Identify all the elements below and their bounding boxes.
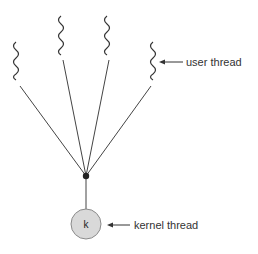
connector-line-3: [86, 60, 109, 176]
connector-line-1: [20, 86, 86, 176]
user-thread-label: user thread: [186, 56, 242, 68]
user-threads: [14, 16, 156, 80]
user-thread-4-wave: [151, 42, 156, 80]
kernel-thread-label: kernel thread: [134, 219, 198, 231]
arrow-left-icon: [159, 60, 165, 65]
connector-lines: [20, 60, 151, 209]
junction-dot: [83, 173, 89, 179]
connector-line-4: [86, 86, 151, 176]
connector-line-2: [63, 60, 86, 176]
user-thread-1-wave: [14, 42, 19, 80]
kernel-thread-callout: kernel thread: [107, 219, 198, 231]
arrow-left-icon: [107, 223, 113, 228]
user-thread-3-wave: [105, 16, 110, 55]
user-thread-2-wave: [59, 16, 64, 55]
user-thread-callout: user thread: [159, 56, 242, 68]
threading-diagram: k user thread kernel thread: [0, 0, 258, 254]
